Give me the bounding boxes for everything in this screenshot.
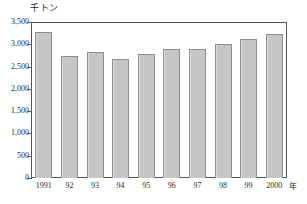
bar	[215, 44, 232, 178]
x-axis-unit-label: 年	[289, 182, 297, 192]
y-tick-label: 1,000	[0, 129, 29, 137]
x-tick-label: 93	[81, 181, 109, 191]
y-tick-mark	[27, 178, 32, 179]
y-tick-label: 500	[0, 152, 29, 160]
x-tick-label: 97	[183, 181, 211, 191]
y-tick-label: 1,500	[0, 107, 29, 115]
x-axis-ticks: 199192939495969798992000	[31, 181, 287, 195]
y-tick-label: 2,000	[0, 85, 29, 93]
x-tick-label: 1991	[30, 181, 58, 191]
x-tick-label: 98	[209, 181, 237, 191]
x-tick-label: 92	[55, 181, 83, 191]
bars-layer	[31, 22, 287, 178]
y-tick-label: 3,500	[0, 18, 29, 26]
bar	[189, 49, 206, 178]
x-tick-label: 99	[235, 181, 263, 191]
y-tick-label: 3,000	[0, 40, 29, 48]
y-tick-label: 2,500	[0, 63, 29, 71]
bar	[87, 52, 104, 178]
bar	[138, 54, 155, 178]
y-tick-label: 0	[0, 174, 29, 182]
x-tick-label: 95	[132, 181, 160, 191]
bar	[35, 32, 52, 178]
x-tick-label: 96	[158, 181, 186, 191]
x-tick-label: 94	[107, 181, 135, 191]
bar	[112, 59, 129, 178]
bar	[266, 34, 283, 178]
bar	[163, 49, 180, 178]
bar	[240, 39, 257, 179]
bar	[61, 56, 78, 178]
bar-chart: 千トン 05001,0001,5002,0002,5003,0003,500 1…	[0, 0, 307, 204]
x-tick-label: 2000	[260, 181, 288, 191]
